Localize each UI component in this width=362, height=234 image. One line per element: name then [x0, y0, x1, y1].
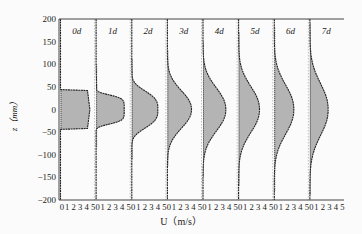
x-tick-label: 2: [250, 202, 254, 212]
profile-fill-4d: [203, 19, 226, 200]
x-tick-label: 1: [172, 202, 176, 212]
x-tick-label: 1: [243, 202, 247, 212]
x-tick-label: 0: [202, 202, 206, 212]
y-tick-label: −150: [37, 172, 56, 182]
profile-fill-6d: [274, 19, 294, 200]
y-axis-label: z（mm）: [4, 94, 24, 134]
profile-fill-1d: [96, 19, 124, 200]
x-axis-label: U（m/s）: [0, 213, 362, 228]
x-tick-label: 3: [256, 202, 260, 212]
x-tick-label: 1: [65, 202, 69, 212]
x-tick-label: 1: [314, 202, 318, 212]
y-tick-label: 200: [43, 14, 57, 24]
x-tick-label: 1: [207, 202, 211, 212]
x-tick-label: 2: [321, 202, 325, 212]
x-tick-label: 3: [220, 202, 224, 212]
x-tick-label: 3: [114, 202, 118, 212]
x-tick-label: 0: [309, 202, 313, 212]
x-tick-label: 4: [227, 202, 232, 212]
x-tick-label: 0: [238, 202, 242, 212]
x-tick-label: 3: [327, 202, 331, 212]
x-tick-label: 4: [120, 202, 125, 212]
x-tick-label: 2: [214, 202, 218, 212]
panel-label-6d: 6d: [286, 26, 296, 36]
x-tick-label: 3: [78, 202, 82, 212]
chart-canvas: 0d0123451d0123452d0123453d0123454d012345…: [0, 0, 362, 234]
x-tick-label: 4: [334, 202, 339, 212]
profile-fill-7d: [310, 19, 328, 200]
x-tick-label: 0: [274, 202, 278, 212]
x-tick-label: 2: [285, 202, 289, 212]
x-tick-label: 2: [143, 202, 147, 212]
panel-label-0d: 0d: [72, 26, 82, 36]
panel-label-2d: 2d: [144, 26, 154, 36]
x-tick-label: 0: [95, 202, 99, 212]
x-tick-label: 1: [136, 202, 140, 212]
panel-label-4d: 4d: [215, 26, 225, 36]
panel-label-5d: 5d: [250, 26, 260, 36]
panel-label-3d: 3d: [178, 26, 189, 36]
x-tick-label: 1: [279, 202, 283, 212]
x-tick-label: 5: [340, 202, 344, 212]
panel-label-1d: 1d: [108, 26, 118, 36]
y-tick-label: 100: [43, 59, 57, 69]
y-tick-label: −100: [37, 150, 56, 160]
profile-fill-5d: [239, 19, 260, 200]
y-tick-label: −50: [42, 127, 57, 137]
x-tick-label: 4: [156, 202, 161, 212]
x-tick-label: 4: [298, 202, 303, 212]
x-tick-label: 4: [84, 202, 89, 212]
profile-fill-2d: [132, 19, 158, 200]
x-tick-label: 3: [149, 202, 153, 212]
x-tick-label: 2: [71, 202, 75, 212]
x-tick-label: 4: [263, 202, 268, 212]
y-tick-label: 0: [52, 105, 57, 115]
y-tick-label: −200: [37, 195, 56, 205]
x-tick-label: 2: [107, 202, 111, 212]
x-tick-label: 0: [131, 202, 135, 212]
x-tick-label: 1: [101, 202, 105, 212]
x-tick-label: 3: [292, 202, 296, 212]
panel-label-7d: 7d: [322, 26, 332, 36]
x-tick-label: 4: [191, 202, 196, 212]
x-tick-label: 2: [178, 202, 182, 212]
profile-fill-0d: [61, 19, 90, 200]
y-tick-label: 50: [47, 82, 57, 92]
x-tick-label: 0: [60, 202, 64, 212]
y-tick-label: 150: [43, 37, 57, 47]
profile-fill-3d: [167, 19, 191, 200]
y-axis-label-text: z（mm）: [9, 97, 19, 133]
x-tick-label: 3: [185, 202, 189, 212]
x-tick-label: 0: [167, 202, 171, 212]
